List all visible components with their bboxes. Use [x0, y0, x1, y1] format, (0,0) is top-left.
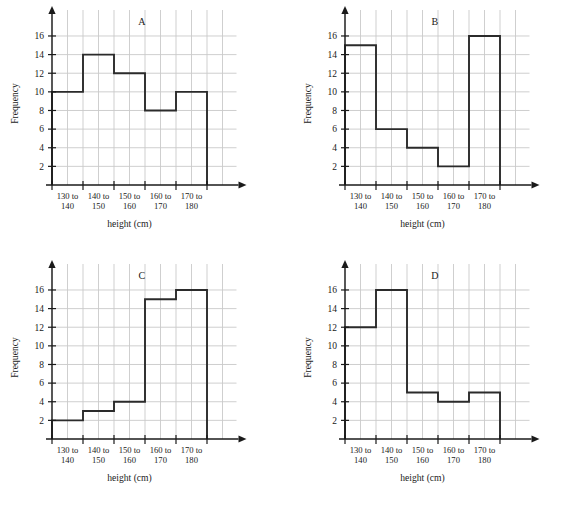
svg-text:14: 14 — [35, 304, 45, 314]
svg-text:10: 10 — [35, 87, 45, 97]
svg-text:180: 180 — [478, 455, 491, 465]
svg-text:4: 4 — [39, 143, 44, 153]
svg-text:170: 170 — [447, 201, 460, 211]
svg-text:170: 170 — [447, 455, 460, 465]
svg-text:180: 180 — [185, 455, 198, 465]
svg-text:160 to: 160 to — [443, 191, 465, 201]
axes — [339, 6, 540, 189]
histogram-panel-d: 246810121416130 to140140 to150150 to1601… — [293, 254, 586, 508]
svg-text:140 to: 140 to — [88, 191, 110, 201]
panel-letter: D — [431, 270, 438, 281]
svg-text:2: 2 — [39, 162, 44, 172]
x-axis-title: height (cm) — [400, 472, 445, 484]
svg-text:6: 6 — [39, 124, 44, 134]
svg-text:14: 14 — [328, 304, 338, 314]
svg-text:2: 2 — [332, 162, 337, 172]
svg-text:140: 140 — [61, 455, 74, 465]
svg-text:6: 6 — [332, 124, 337, 134]
svg-text:170: 170 — [154, 455, 167, 465]
svg-text:16: 16 — [35, 31, 45, 41]
svg-text:150: 150 — [92, 455, 105, 465]
svg-text:140: 140 — [354, 201, 367, 211]
svg-text:150 to: 150 to — [119, 445, 141, 455]
svg-text:140: 140 — [61, 201, 74, 211]
svg-text:14: 14 — [35, 50, 45, 60]
histogram-panel-a: 246810121416130 to140140 to150150 to1601… — [0, 0, 293, 254]
svg-text:150 to: 150 to — [119, 191, 141, 201]
svg-text:4: 4 — [39, 397, 44, 407]
axes — [46, 6, 247, 189]
y-axis-ticks: 246810121416 — [35, 285, 57, 425]
svg-text:140 to: 140 to — [381, 191, 403, 201]
svg-text:160: 160 — [416, 201, 429, 211]
svg-text:2: 2 — [39, 416, 44, 426]
x-axis-title: height (cm) — [400, 218, 445, 230]
svg-text:16: 16 — [328, 31, 338, 41]
axes — [46, 260, 247, 443]
svg-text:140 to: 140 to — [381, 445, 403, 455]
svg-text:170 to: 170 to — [181, 445, 203, 455]
x-axis-labels: 130 to140140 to150150 to160160 to170170 … — [350, 191, 496, 211]
svg-text:150: 150 — [92, 201, 105, 211]
svg-text:12: 12 — [35, 69, 45, 79]
svg-text:170 to: 170 to — [474, 445, 496, 455]
histogram-panel-b: 246810121416130 to140140 to150150 to1601… — [293, 0, 586, 254]
x-axis-labels: 130 to140140 to150150 to160160 to170170 … — [350, 445, 496, 465]
svg-text:130 to: 130 to — [350, 445, 372, 455]
svg-text:12: 12 — [328, 69, 338, 79]
svg-text:16: 16 — [328, 285, 338, 295]
svg-text:150 to: 150 to — [412, 445, 434, 455]
svg-text:14: 14 — [328, 50, 338, 60]
gridlines — [345, 264, 530, 439]
axes — [339, 260, 540, 443]
svg-text:170 to: 170 to — [181, 191, 203, 201]
x-axis-title: height (cm) — [107, 218, 152, 230]
y-axis-title: Frequency — [9, 83, 20, 124]
panel-letter: A — [138, 16, 146, 27]
svg-text:160: 160 — [416, 455, 429, 465]
svg-text:140 to: 140 to — [88, 445, 110, 455]
svg-text:10: 10 — [35, 341, 45, 351]
svg-text:140: 140 — [354, 455, 367, 465]
svg-text:160: 160 — [123, 455, 136, 465]
panel-letter: C — [139, 270, 146, 281]
svg-text:160 to: 160 to — [150, 445, 172, 455]
y-axis-title: Frequency — [9, 337, 20, 378]
svg-text:170: 170 — [154, 201, 167, 211]
svg-text:160 to: 160 to — [443, 445, 465, 455]
x-axis-labels: 130 to140140 to150150 to160160 to170170 … — [57, 445, 203, 465]
svg-text:8: 8 — [39, 106, 44, 116]
x-axis-title: height (cm) — [107, 472, 152, 484]
y-axis-title: Frequency — [302, 83, 313, 124]
svg-text:10: 10 — [328, 341, 338, 351]
svg-text:180: 180 — [478, 201, 491, 211]
svg-text:130 to: 130 to — [57, 445, 79, 455]
svg-text:160 to: 160 to — [150, 191, 172, 201]
svg-text:180: 180 — [185, 201, 198, 211]
svg-text:4: 4 — [332, 397, 337, 407]
svg-text:160: 160 — [123, 201, 136, 211]
svg-text:12: 12 — [35, 323, 45, 333]
svg-text:150: 150 — [385, 201, 398, 211]
svg-text:12: 12 — [328, 323, 338, 333]
histogram-panel-c: 246810121416130 to140140 to150150 to1601… — [0, 254, 293, 508]
histogram-panel-grid: 246810121416130 to140140 to150150 to1601… — [0, 0, 586, 508]
svg-text:150: 150 — [385, 455, 398, 465]
svg-text:170 to: 170 to — [474, 191, 496, 201]
svg-text:6: 6 — [39, 378, 44, 388]
svg-text:130 to: 130 to — [57, 191, 79, 201]
svg-text:16: 16 — [35, 285, 45, 295]
svg-text:8: 8 — [332, 360, 337, 370]
y-axis-title: Frequency — [302, 337, 313, 378]
svg-text:130 to: 130 to — [350, 191, 372, 201]
svg-text:6: 6 — [332, 378, 337, 388]
svg-text:8: 8 — [332, 106, 337, 116]
svg-text:150 to: 150 to — [412, 191, 434, 201]
svg-text:2: 2 — [332, 416, 337, 426]
panel-letter: B — [432, 16, 439, 27]
svg-text:8: 8 — [39, 360, 44, 370]
x-axis-labels: 130 to140140 to150150 to160160 to170170 … — [57, 191, 203, 211]
svg-text:10: 10 — [328, 87, 338, 97]
svg-text:4: 4 — [332, 143, 337, 153]
